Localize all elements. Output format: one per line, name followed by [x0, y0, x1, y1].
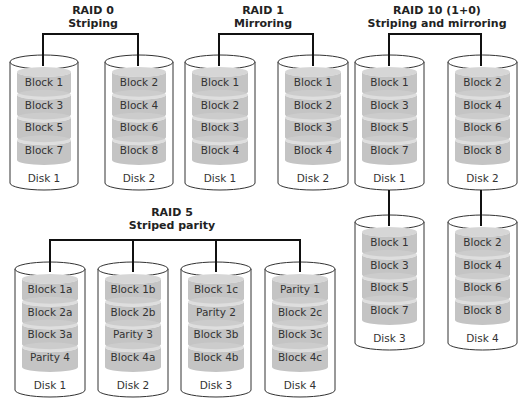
disk-label: Disk 3 [373, 332, 406, 344]
block-label: Block 4b [193, 351, 238, 363]
block-label: Block 1 [370, 236, 408, 248]
block-label: Block 3a [28, 328, 73, 340]
block-label: Block 3 [25, 99, 63, 111]
block-label: Block 1b [110, 283, 155, 295]
disk-2: Block 1bBlock 2bParity 3Block 4aDisk 2 [98, 262, 168, 397]
block-label: Block 3 [201, 121, 239, 133]
block-label: Block 4 [463, 259, 502, 271]
block-label: Block 1a [28, 283, 73, 295]
block-label: Block 5 [370, 121, 408, 133]
disk-1: Block 1Block 3Block 5Block 7Disk 1 [355, 55, 424, 190]
disk-label: Disk 2 [297, 172, 330, 184]
block-label: Block 1c [194, 283, 238, 295]
block-label: Block 2 [120, 76, 158, 88]
block-label: Block 8 [463, 144, 501, 156]
raid-diagram: RAID 0StripingBlock 1Block 3Block 5Block… [0, 0, 524, 405]
disk-label: Disk 3 [200, 379, 233, 391]
disk-label: Disk 1 [204, 172, 237, 184]
block-label: Block 3b [193, 328, 238, 340]
disk-label: Disk 1 [373, 172, 406, 184]
block-label: Block 3 [370, 99, 408, 111]
block-label: Parity 1 [280, 283, 320, 295]
disk-label: Disk 1 [34, 379, 67, 391]
disk-2: Block 2Block 4Block 6Block 8Disk 2 [105, 55, 173, 190]
block-label: Block 6 [120, 121, 159, 133]
block-label: Block 4 [294, 144, 333, 156]
disk-label: Disk 4 [466, 332, 499, 344]
disk-label: Disk 4 [284, 379, 317, 391]
block-label: Block 1 [294, 76, 332, 88]
disk-3: Block 1Block 3Block 5Block 7Disk 3 [355, 215, 424, 350]
block-label: Block 5 [370, 281, 408, 293]
disk-2: Block 2Block 4Block 6Block 8Disk 2 [448, 55, 517, 190]
block-label: Block 3 [294, 121, 332, 133]
block-label: Block 1 [201, 76, 239, 88]
disk-3: Block 1cParity 2Block 3bBlock 4bDisk 3 [181, 262, 251, 397]
block-label: Block 2c [278, 306, 322, 318]
raid-level-subtitle: Mirroring [234, 17, 292, 30]
block-label: Block 8 [120, 144, 158, 156]
block-label: Parity 4 [30, 351, 70, 363]
block-label: Block 8 [463, 304, 501, 316]
block-label: Block 4 [120, 99, 159, 111]
block-label: Parity 2 [196, 306, 236, 318]
block-label: Block 7 [370, 144, 408, 156]
block-label: Block 1 [370, 76, 408, 88]
block-label: Block 7 [25, 144, 63, 156]
block-label: Block 6 [463, 121, 502, 133]
raid10-title: RAID 10 (1+0)Striping and mirroring [367, 4, 506, 30]
raid0-title: RAID 0Striping [68, 4, 118, 30]
raid-level-title: RAID 5 [151, 206, 193, 219]
block-label: Block 2 [463, 236, 501, 248]
block-label: Block 5 [25, 121, 63, 133]
block-label: Block 2a [28, 306, 73, 318]
block-label: Block 2 [463, 76, 501, 88]
raid-level-title: RAID 10 (1+0) [393, 4, 481, 17]
connector-line [50, 240, 300, 272]
block-label: Block 4 [201, 144, 240, 156]
block-label: Block 3 [370, 259, 408, 271]
block-label: Block 6 [463, 281, 502, 293]
disk-1: Block 1Block 2Block 3Block 4Disk 1 [185, 55, 255, 190]
disk-4: Parity 1Block 2cBlock 3cBlock 4cDisk 4 [265, 262, 335, 397]
raid1-title: RAID 1Mirroring [234, 4, 292, 30]
block-label: Block 7 [370, 304, 408, 316]
disk-label: Disk 2 [123, 172, 156, 184]
block-label: Block 3c [278, 328, 322, 340]
disk-1: Block 1aBlock 2aBlock 3aParity 4Disk 1 [15, 262, 85, 397]
raid-level-subtitle: Striped parity [129, 219, 215, 232]
block-label: Block 1 [25, 76, 63, 88]
block-label: Block 2 [201, 99, 239, 111]
disk-label: Disk 2 [117, 379, 150, 391]
disk-2: Block 1Block 2Block 3Block 4Disk 2 [278, 55, 348, 190]
raid-level-title: RAID 1 [242, 4, 284, 17]
disk-4: Block 2Block 4Block 6Block 8Disk 4 [448, 215, 517, 350]
disk-label: Disk 2 [466, 172, 499, 184]
block-label: Parity 3 [113, 328, 153, 340]
disk-label: Disk 1 [28, 172, 61, 184]
block-label: Block 4c [278, 351, 322, 363]
raid5-title: RAID 5Striped parity [129, 206, 215, 232]
block-label: Block 2 [294, 99, 332, 111]
raid-level-subtitle: Striping and mirroring [367, 17, 506, 30]
raid-level-title: RAID 0 [72, 4, 114, 17]
disk-1: Block 1Block 3Block 5Block 7Disk 1 [10, 55, 78, 190]
raid-level-subtitle: Striping [68, 17, 118, 30]
block-label: Block 4a [111, 351, 156, 363]
block-label: Block 4 [463, 99, 502, 111]
block-label: Block 2b [110, 306, 155, 318]
